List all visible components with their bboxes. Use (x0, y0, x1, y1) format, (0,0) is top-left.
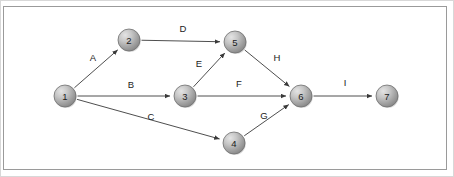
node-5[interactable]: 5 (224, 31, 247, 54)
edge-label-a: A (90, 52, 97, 63)
node-label-2: 2 (126, 35, 131, 46)
node-label-1: 1 (62, 91, 67, 102)
node-2[interactable]: 2 (118, 29, 141, 52)
node-3[interactable]: 3 (174, 85, 197, 108)
nodes-layer: 1234567 (54, 29, 399, 155)
edge-label-d: D (180, 23, 187, 34)
edge-label-b: B (128, 79, 134, 90)
node-6[interactable]: 6 (290, 85, 313, 108)
edge-label-e: E (196, 58, 202, 69)
edge-label-c: C (148, 111, 155, 122)
edge-label-f: F (236, 78, 242, 89)
node-7[interactable]: 7 (376, 85, 399, 108)
edges-layer (74, 40, 372, 139)
node-4[interactable]: 4 (223, 132, 246, 155)
edge-label-g: G (260, 110, 267, 121)
edge-d (142, 40, 221, 41)
node-label-6: 6 (298, 91, 303, 102)
edge-label-i: I (344, 77, 347, 88)
graph-diagram: ABCDEFGHI 1234567 (0, 0, 454, 177)
edge-label-h: H (274, 52, 281, 63)
node-1[interactable]: 1 (54, 85, 77, 108)
edge-h (245, 50, 290, 87)
screenshot-root: ABCDEFGHI 1234567 (0, 0, 454, 177)
node-label-4: 4 (231, 138, 236, 149)
node-label-5: 5 (232, 37, 237, 48)
node-label-3: 3 (182, 91, 187, 102)
node-label-7: 7 (384, 91, 389, 102)
